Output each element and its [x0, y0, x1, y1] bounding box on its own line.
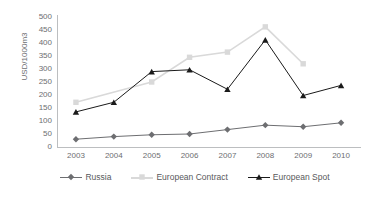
legend-item-european-spot[interactable]: European Spot — [248, 172, 330, 182]
legend-key-diamond-icon — [60, 172, 82, 182]
data-point-marker — [338, 120, 344, 126]
diamond-marker-icon — [65, 172, 77, 182]
legend-item-russia[interactable]: Russia — [60, 172, 111, 182]
data-point-marker — [148, 132, 154, 138]
data-point-marker — [262, 37, 268, 43]
data-point-marker — [73, 109, 79, 115]
diamond-glyph — [68, 174, 74, 180]
data-point-marker — [73, 100, 78, 105]
series-russia — [73, 120, 345, 143]
data-point-marker — [224, 126, 230, 132]
data-point-marker — [338, 83, 344, 89]
square-marker-icon — [136, 172, 148, 182]
square-glyph — [140, 174, 145, 179]
triangle-marker-icon — [253, 172, 265, 182]
data-point-marker — [300, 124, 306, 130]
chart-container: USD/1000m3 50045040035030025020015010050… — [0, 0, 390, 197]
data-point-marker — [225, 49, 230, 54]
series-european-spot — [73, 37, 345, 115]
data-point-marker — [73, 136, 79, 142]
data-point-marker — [187, 55, 192, 60]
data-point-marker — [263, 24, 268, 29]
legend-label: European Contract — [156, 172, 227, 182]
data-point-marker — [224, 86, 230, 92]
legend-key-square-icon — [131, 172, 153, 182]
chart-legend: RussiaEuropean ContractEuropean Spot — [0, 172, 390, 182]
data-point-marker — [186, 131, 192, 137]
series-line — [76, 40, 341, 112]
data-point-marker — [300, 61, 305, 66]
legend-key-triangle-icon — [248, 172, 270, 182]
legend-item-european-contract[interactable]: European Contract — [131, 172, 227, 182]
series-plot-area — [0, 0, 390, 197]
legend-label: Russia — [85, 172, 111, 182]
data-point-marker — [111, 133, 117, 139]
legend-label: European Spot — [273, 172, 330, 182]
data-point-marker — [149, 79, 154, 84]
series-line — [76, 27, 303, 102]
series-european-contract — [73, 24, 306, 105]
data-point-marker — [262, 122, 268, 128]
data-point-marker — [300, 93, 306, 99]
triangle-glyph — [256, 174, 262, 180]
